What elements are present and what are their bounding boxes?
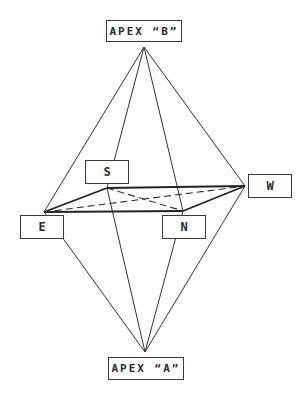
- apex-a-label: APEX “A”: [108, 357, 184, 380]
- edge-s-w: [107, 186, 245, 188]
- edge-s-n-dashed: [107, 188, 183, 211]
- vertex-n-label: N: [162, 215, 206, 239]
- bipyramid-diagram: [0, 0, 307, 399]
- vertex-e-label: E: [20, 215, 64, 239]
- edge-e-n: [44, 211, 183, 212]
- apex-b-label: APEX “B”: [106, 20, 182, 42]
- vertex-s-label: S: [85, 160, 129, 184]
- edge-a-s: [107, 188, 145, 352]
- edge-b-w: [144, 47, 245, 186]
- vertex-w-label: W: [248, 174, 292, 198]
- edge-e-s: [44, 188, 107, 212]
